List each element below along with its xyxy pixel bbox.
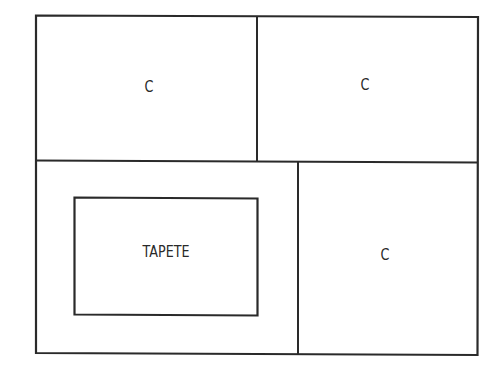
region-label-top-right: C [361,75,370,94]
region-label-top-left: C [145,77,154,96]
layout-diagram: C C C TAPETE [0,0,503,372]
tapete-label: TAPETE [142,243,189,261]
diagram-lines [0,0,503,372]
region-label-bottom-right: C [381,245,390,264]
